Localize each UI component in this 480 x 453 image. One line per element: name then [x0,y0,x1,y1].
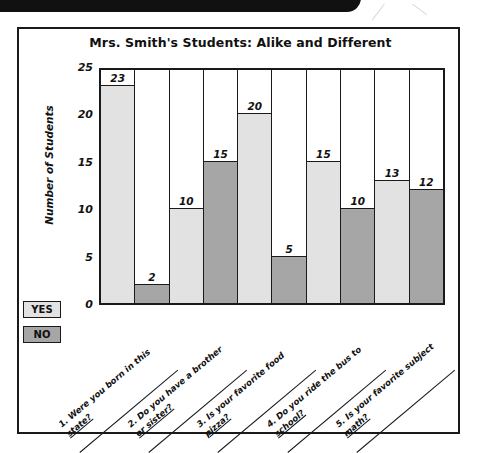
scan-edge-artifact [0,0,361,12]
bar-cell: 2 [135,70,169,303]
bar-value-label: 15 [307,148,340,160]
bar-cell: 10 [341,70,375,303]
bar-cell: 20 [238,70,272,303]
plot-area: 232101520515101312 [99,68,445,305]
bar-value-label: 23 [101,72,134,84]
bar-cell: 12 [410,70,443,303]
bar-value-label: 12 [410,176,443,188]
bar-cell: 13 [375,70,409,303]
chart-title: Mrs. Smith's Students: Alike and Differe… [19,35,462,50]
bar-3-YES [238,113,271,303]
bar-2-YES [170,208,203,303]
bar-value-label: 10 [170,195,203,207]
bar-5-YES [375,180,408,303]
question-labels: 1.Were you born in thisstate?2.Do you ha… [19,305,462,433]
bar-cell: 15 [307,70,341,303]
bar-5-NO [410,189,443,303]
y-tick-label: 10 [63,203,93,216]
bar-value-label: 20 [238,100,271,112]
bar-4-NO [341,208,374,303]
y-tick-label: 25 [63,61,93,74]
y-axis-title: Number of Students [43,85,55,245]
bars-row: 232101520515101312 [101,70,443,303]
bar-value-label: 2 [135,271,168,283]
bar-cell: 5 [272,70,306,303]
bar-cell: 10 [170,70,204,303]
y-tick-label: 15 [63,156,93,169]
y-tick-label: 5 [63,251,93,264]
bar-1-NO [135,284,168,303]
bar-4-YES [307,161,340,303]
bar-3-NO [272,256,305,303]
bar-2-NO [204,161,237,303]
bar-value-label: 10 [341,195,374,207]
bar-value-label: 13 [375,167,408,179]
bar-value-label: 15 [204,148,237,160]
bar-cell: 15 [204,70,238,303]
bar-value-label: 5 [272,243,305,255]
worksheet-frame: Mrs. Smith's Students: Alike and Differe… [17,27,460,434]
bar-1-YES [101,85,134,303]
y-tick-label: 20 [63,108,93,121]
bar-cell: 23 [101,70,135,303]
